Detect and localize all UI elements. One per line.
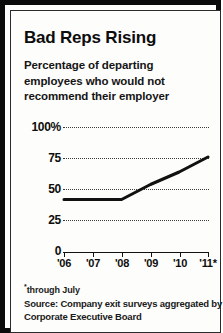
x-tick-label-08: '08 [109,257,135,269]
gridline-100 [63,127,209,128]
source-line-1: Source: Company exit surveys aggregated … [24,298,216,311]
x-tick-label-06: '06 [51,257,77,269]
x-tick-label-11: '11* [195,257,221,269]
y-tick-label-100: 100% [21,120,61,134]
x-tick-label-09: '09 [138,257,164,269]
gridline-25 [63,220,209,221]
y-tick-label-0: 0 [21,244,61,258]
x-tick-label-10: '10 [167,257,193,269]
footnote: *through July [24,283,214,295]
y-tick-label-75: 75 [21,151,61,165]
footnote-text: through July [27,285,80,295]
y-tick-label-50: 50 [21,182,61,196]
source-line-2: Corporate Executive Board [24,311,216,324]
chart-card: Bad Reps Rising Percentage of departing … [10,10,221,333]
y-tick-label-25: 25 [21,213,61,227]
gridline-50 [63,189,209,190]
chart-frame: Bad Reps Rising Percentage of departing … [0,0,221,333]
series-polyline [64,157,208,200]
x-axis-line [63,252,209,253]
gridline-75 [63,158,209,159]
x-tick-label-07: '07 [80,257,106,269]
source-note: Source: Company exit surveys aggregated … [24,298,216,323]
